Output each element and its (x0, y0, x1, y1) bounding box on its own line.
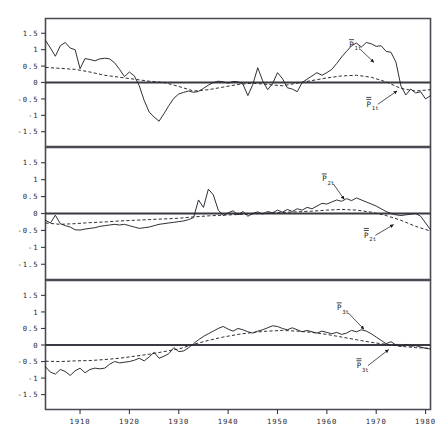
series-line-solid (46, 326, 431, 376)
x-tick-label: 1950 (267, 417, 288, 426)
annotation-leader-arrow (361, 50, 374, 63)
x-tick-label: 1930 (168, 417, 189, 426)
annotation-leader-arrow (333, 184, 344, 199)
y-tick-label: -1.5 (18, 127, 39, 136)
y-tick-label: -0.5 (18, 357, 39, 366)
annotation-subscript: 3t (342, 309, 349, 315)
time-series-figure: 1.510.50-0.5-1-1.5P1tP1t1.510.50-0.5-1-1… (0, 0, 444, 438)
annotation-subscript: 2t (327, 180, 334, 186)
panel-3: 1.510.50-0.5-1-1.5P3tP3t (18, 281, 431, 410)
y-tick-label: 0.5 (23, 62, 39, 71)
series-line-solid (46, 189, 431, 230)
y-tick-label: -0.5 (18, 226, 39, 235)
series-annotation: P2t (322, 174, 344, 199)
x-tick-label: 1940 (218, 417, 239, 426)
y-tick-label: 1 (33, 308, 38, 317)
y-tick-label: 1.5 (23, 29, 39, 38)
y-tick-label: 0 (33, 209, 38, 218)
y-tick-label: 1 (33, 45, 38, 54)
y-tick-label: -1 (28, 243, 38, 252)
series-annotation: P3t (356, 350, 388, 373)
y-tick-label: 0 (33, 78, 38, 87)
annotation-subscript: 1t (355, 45, 362, 51)
annotation-subscript: 3t (362, 367, 369, 373)
y-tick-label: -1 (28, 374, 38, 383)
series-annotation: P3t (337, 303, 364, 329)
y-tick-label: -1 (28, 111, 38, 120)
x-axis: 19101920193019401950196019701980 (70, 410, 436, 426)
annotation-subscript: 2t (369, 236, 376, 242)
annotation-subscript: 1t (372, 105, 379, 111)
x-tick-label: 1960 (316, 417, 337, 426)
y-tick-label: -0.5 (18, 95, 39, 104)
x-tick-label: 1980 (415, 417, 436, 426)
y-tick-label: 1.5 (23, 158, 39, 167)
series-annotation: P2t (364, 225, 394, 243)
three-panel-line-chart: 1.510.50-0.5-1-1.5P1tP1t1.510.50-0.5-1-1… (0, 0, 444, 438)
series-annotation: P1t (366, 91, 397, 111)
annotation-leader-arrow (368, 350, 389, 366)
y-tick-label: 0.5 (23, 324, 39, 333)
x-tick-label: 1910 (70, 417, 91, 426)
y-tick-label: 1 (33, 175, 38, 184)
y-tick-label: -1.5 (18, 260, 39, 269)
panel-1: 1.510.50-0.5-1-1.5P1tP1t (18, 19, 431, 147)
series-line-dashed (46, 67, 431, 91)
panels-group: 1.510.50-0.5-1-1.5P1tP1t1.510.50-0.5-1-1… (18, 19, 431, 410)
annotation-leader-arrow (378, 91, 397, 104)
y-tick-label: 1.5 (23, 291, 39, 300)
y-tick-label: 0 (33, 341, 38, 350)
x-tick-label: 1970 (366, 417, 387, 426)
annotation-leader-arrow (375, 225, 393, 236)
x-tick-label: 1920 (119, 417, 140, 426)
y-tick-label: -1.5 (18, 390, 39, 399)
y-tick-label: 0.5 (23, 192, 39, 201)
annotation-leader-arrow (348, 313, 364, 329)
panel-2: 1.510.50-0.5-1-1.5P2tP2t (18, 148, 431, 280)
